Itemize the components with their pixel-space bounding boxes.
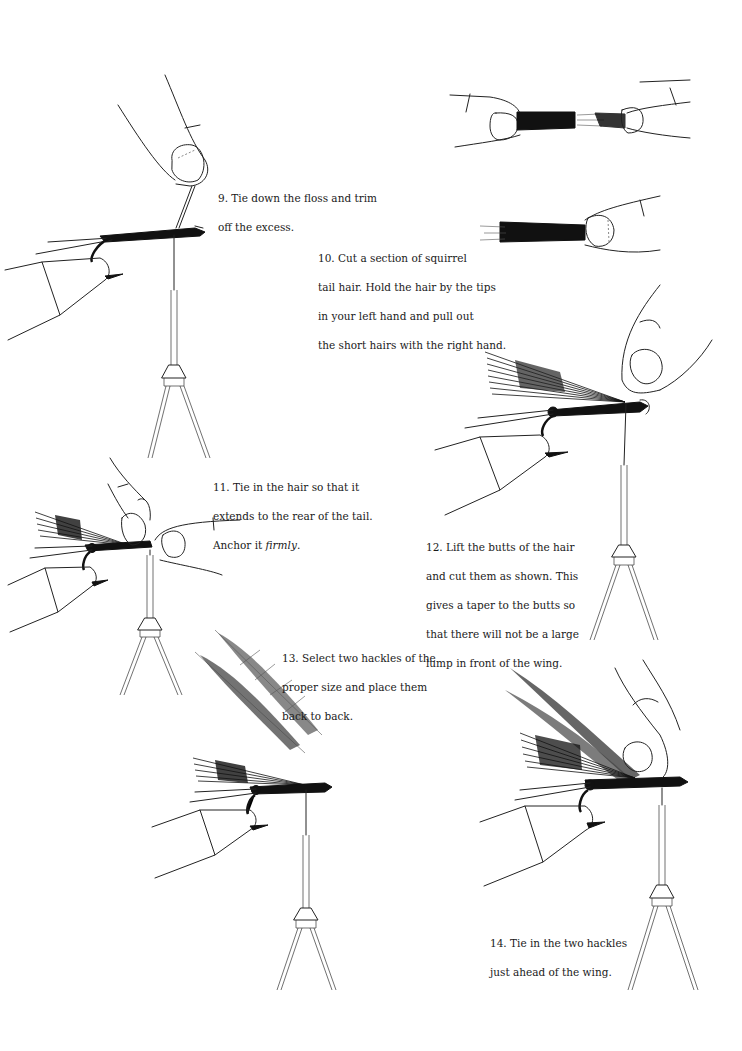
step-12-caption: 12. Lift the butts of the hair and cut t…	[426, 525, 579, 685]
step-13-line-2: proper size and place them	[282, 680, 436, 695]
step-13-line-1: 13. Select two hackles of the	[282, 651, 436, 666]
instruction-page: 9. Tie down the floss and trim off the e…	[0, 0, 742, 1051]
step-11-emphasis: firmly	[266, 539, 297, 551]
step-11-trail: .	[297, 539, 300, 551]
step-11-line-1: 11. Tie in the hair so that it	[213, 480, 373, 495]
step-12-line-3: gives a taper to the butts so	[426, 598, 579, 613]
step-10-line-1: 10. Cut a section of squirrel	[318, 251, 506, 266]
step-11-caption: 11. Tie in the hair so that it extends t…	[213, 465, 373, 567]
step-12-line-5: lump in front of the wing.	[426, 656, 579, 671]
step-10-line-2: tail hair. Hold the hair by the tips	[318, 280, 506, 295]
step-10-line-4: the short hairs with the right hand.	[318, 338, 506, 353]
step-11-line-2: extends to the rear of the tail.	[213, 509, 373, 524]
step-9-line-2: off the excess.	[218, 220, 377, 235]
step-10-line-3: in your left hand and pull out	[318, 309, 506, 324]
fig-10a-illustration	[450, 80, 690, 147]
fig-10b-illustration	[480, 196, 660, 252]
step-14-line-1: 14. Tie in the two hackles	[490, 936, 627, 951]
step-14-caption: 14. Tie in the two hackles just ahead of…	[490, 921, 627, 994]
step-13-caption: 13. Select two hackles of the proper siz…	[282, 636, 436, 738]
step-12-line-1: 12. Lift the butts of the hair	[426, 540, 579, 555]
step-10-caption: 10. Cut a section of squirrel tail hair.…	[318, 236, 506, 367]
step-11-line-3-text: Anchor it	[213, 539, 266, 551]
step-12-line-2: and cut them as shown. This	[426, 569, 579, 584]
step-13-line-3: back to back.	[282, 709, 436, 724]
step-14-line-2: just ahead of the wing.	[490, 965, 627, 980]
step-12-line-4: that there will not be a large	[426, 627, 579, 642]
step-9-line-1: 9. Tie down the floss and trim	[218, 191, 377, 206]
step-11-line-3: Anchor it firmly.	[213, 538, 373, 553]
fig-9-illustration	[5, 75, 210, 458]
